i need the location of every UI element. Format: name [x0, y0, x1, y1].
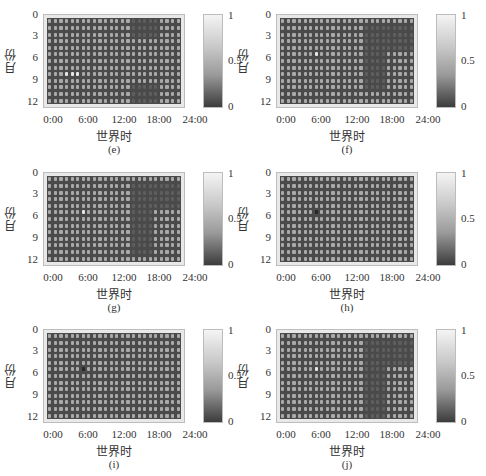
colorbar — [436, 329, 456, 423]
colorbar-tick: 0 — [461, 415, 467, 427]
heatmap-cell — [408, 44, 414, 51]
heatmap-cell — [175, 359, 181, 366]
x-tick: 18:00 — [372, 271, 412, 283]
x-tick: 12:00 — [337, 271, 377, 283]
x-tick: 6:00 — [301, 428, 341, 440]
heatmap-cell — [175, 340, 181, 347]
y-tick: 3 — [255, 344, 271, 356]
heatmap-cell — [175, 176, 181, 183]
panel-caption: (j) — [317, 458, 377, 470]
x-tick: 0:00 — [266, 428, 306, 440]
heatmap-cell — [175, 202, 181, 209]
heatmap-cell — [408, 216, 414, 223]
heatmap-plot — [276, 14, 418, 108]
heatmap-cell — [408, 399, 414, 406]
x-tick: 6:00 — [68, 271, 108, 283]
y-axis-title: 月份 — [235, 48, 249, 74]
y-tick: 0 — [22, 8, 38, 20]
x-axis-title: 世界时 — [317, 127, 377, 144]
heatmap-cell — [408, 412, 414, 419]
panel-caption: (f) — [317, 143, 377, 155]
heatmap-cell — [408, 58, 414, 65]
y-tick: 9 — [255, 388, 271, 400]
x-axis-title: 世界时 — [317, 285, 377, 302]
heatmap-grid — [47, 18, 181, 104]
y-axis-title: 月份 — [2, 363, 16, 389]
heatmap-cell — [408, 379, 414, 386]
x-tick: 0:00 — [33, 113, 73, 125]
x-tick: 0:00 — [266, 113, 306, 125]
heatmap-cell — [408, 255, 414, 262]
heatmap-cell — [175, 373, 181, 380]
x-tick: 6:00 — [301, 113, 341, 125]
heatmap-cell — [408, 97, 414, 104]
y-tick: 9 — [255, 73, 271, 85]
heatmap-cell — [175, 236, 181, 243]
heatmap-cell — [175, 346, 181, 353]
x-tick: 12:00 — [104, 113, 144, 125]
y-tick: 12 — [255, 410, 271, 422]
heatmap-cell — [408, 189, 414, 196]
x-tick: 6:00 — [68, 428, 108, 440]
x-tick: 18:00 — [372, 428, 412, 440]
heatmap-cell — [175, 412, 181, 419]
heatmap-plot — [276, 329, 418, 423]
panel-caption: (g) — [84, 301, 144, 313]
heatmap-cell — [408, 222, 414, 229]
colorbar-tick: 0 — [461, 100, 467, 112]
x-tick: 18:00 — [139, 271, 179, 283]
heatmap-cell — [175, 366, 181, 373]
heatmap-cell — [408, 84, 414, 91]
heatmap-cell — [175, 249, 181, 256]
y-tick: 0 — [255, 166, 271, 178]
x-tick: 24:00 — [175, 271, 215, 283]
x-tick: 0:00 — [266, 271, 306, 283]
y-tick: 0 — [255, 323, 271, 335]
y-axis-title: 月份 — [2, 48, 16, 74]
heatmap-cell — [175, 25, 181, 32]
colorbar — [203, 14, 223, 108]
heatmap-cell — [175, 386, 181, 393]
heatmap-cell — [408, 209, 414, 216]
heatmap-cell — [175, 209, 181, 216]
heatmap-cell — [175, 183, 181, 190]
heatmap-cell — [175, 393, 181, 400]
x-tick: 6:00 — [68, 113, 108, 125]
panel-e: 月份 0 3 6 9 12 0:00 6:00 12:00 18:00 24:0… — [0, 0, 243, 158]
heatmap-cell — [175, 91, 181, 98]
heatmap-cell — [408, 38, 414, 45]
heatmap-cell — [408, 346, 414, 353]
heatmap-cell — [175, 216, 181, 223]
heatmap-cell — [175, 38, 181, 45]
heatmap-cell — [408, 183, 414, 190]
y-tick: 6 — [255, 51, 271, 63]
heatmap-cell — [175, 64, 181, 71]
heatmap-plot — [43, 329, 185, 423]
heatmap-cell — [175, 44, 181, 51]
y-tick: 0 — [255, 8, 271, 20]
heatmap-cell — [408, 71, 414, 78]
x-tick: 24:00 — [408, 428, 448, 440]
panel-caption: (e) — [84, 143, 144, 155]
heatmap-cell — [408, 18, 414, 25]
panel-caption: (h) — [317, 301, 377, 313]
heatmap-cell — [175, 242, 181, 249]
x-tick: 24:00 — [408, 271, 448, 283]
heatmap-cell — [175, 18, 181, 25]
heatmap-grid — [47, 176, 181, 262]
colorbar-tick: 0.5 — [461, 212, 475, 224]
panel-f: 月份 0 3 6 9 12 0:00 6:00 12:00 18:00 24:0… — [233, 0, 476, 158]
heatmap-cell — [175, 31, 181, 38]
heatmap-cell — [175, 84, 181, 91]
heatmap-cell — [408, 333, 414, 340]
heatmap-cell — [175, 406, 181, 413]
y-tick: 6 — [22, 209, 38, 221]
heatmap-cell — [175, 97, 181, 104]
heatmap-cell — [175, 229, 181, 236]
y-tick: 12 — [22, 410, 38, 422]
heatmap-plot — [276, 172, 418, 266]
heatmap-cell — [408, 359, 414, 366]
x-tick: 24:00 — [175, 113, 215, 125]
heatmap-cell — [175, 222, 181, 229]
x-axis-title: 世界时 — [84, 285, 144, 302]
